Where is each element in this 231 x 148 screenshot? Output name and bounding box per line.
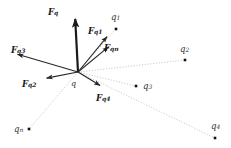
vector-label-Fq: Fq <box>48 8 58 17</box>
charge-label-q3: q3 <box>143 82 152 91</box>
charge-dot-q2 <box>184 59 187 62</box>
diagram-canvas <box>0 0 231 148</box>
charge-dot-q3 <box>135 85 138 88</box>
vector-label-Fq1: Fq1 <box>88 27 102 36</box>
force-vector-Fq1 <box>78 37 107 72</box>
force-diagram-figure: Fq Fq1 Fqn Fq3 Fq2 Fq4 q1 q2 q3 q4 qn q <box>0 0 231 148</box>
force-vector-Fq <box>75 19 78 72</box>
charge-label-q4: q4 <box>211 122 220 131</box>
dotted-connector-line-q3 <box>78 72 136 86</box>
charge-dot-q4 <box>214 137 217 140</box>
force-vector-Fq4 <box>78 72 100 86</box>
charge-label-q1: q1 <box>111 13 120 22</box>
force-vector-Fq2 <box>47 72 78 78</box>
charge-dot-q1 <box>115 28 118 31</box>
vector-label-Fq3: Fq3 <box>11 46 25 55</box>
origin-charge-label: q <box>71 80 76 88</box>
dotted-connector-line-q2 <box>78 60 185 72</box>
charge-dot-qn <box>28 128 31 131</box>
vector-label-Fq2: Fq2 <box>22 80 36 89</box>
charge-label-qn: qn <box>14 125 23 134</box>
force-vector-Fq3 <box>17 54 78 72</box>
vector-label-Fqn: Fqn <box>104 44 119 53</box>
charge-label-q2: q2 <box>180 45 189 54</box>
vector-label-Fq4: Fq4 <box>96 94 110 103</box>
